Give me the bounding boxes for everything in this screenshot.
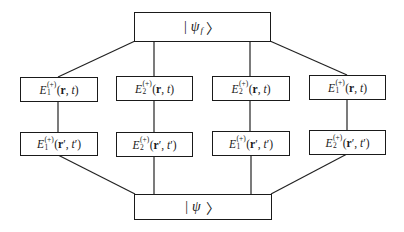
paren-close: ) [363, 82, 367, 94]
paren-close: ) [77, 138, 81, 150]
operator-symbol: E [328, 82, 335, 94]
operator-subscript: 1 [237, 143, 246, 150]
paren-close: ) [267, 83, 271, 95]
ket-close: 〉 [206, 197, 221, 217]
operator-indices: (+) 1 [336, 79, 345, 94]
operator-subscript: 2 [333, 142, 342, 149]
operator-subscript: 2 [239, 88, 248, 95]
paren-close: ) [173, 139, 177, 151]
operator-subscript: 1 [45, 144, 54, 151]
ket-open: | [185, 199, 189, 215]
operator-symbol: E [39, 84, 46, 96]
operator-symbol: E [325, 137, 332, 149]
final-state-box: | ψ f 〉 [134, 12, 271, 42]
operator-indices: (+) 2 [140, 136, 149, 151]
field-op-col3-upper: E (+) 2 ( r , t ) [212, 76, 290, 101]
operator-subscript: 1 [47, 89, 56, 96]
operator-indices: (+) 1 [237, 135, 246, 150]
operator-subscript: 2 [140, 144, 149, 151]
field-op-col1-lower: E (+) 1 ( r ′ , t ′ ) [20, 132, 98, 156]
connector-top-to-col1 [58, 41, 135, 77]
operator-indices: (+) 1 [47, 81, 56, 96]
operator-indices: (+) 2 [143, 80, 152, 95]
field-op-col2-upper: E (+) 2 ( r , t ) [116, 76, 193, 101]
connector-col1-to-bottom [58, 155, 135, 194]
paren-close: ) [269, 138, 273, 150]
interference-diagram: | ψ f 〉 E (+) 1 ( r , t ) E (+) 1 ( r ′ … [0, 0, 404, 232]
operator-indices: (+) 2 [333, 134, 342, 149]
operator-symbol: E [135, 83, 142, 95]
paren-close: ) [75, 84, 79, 96]
operator-indices: (+) 1 [45, 136, 54, 151]
field-op-col4-lower: E (+) 2 ( r ′ , t ′ ) [309, 130, 386, 155]
field-op-col4-upper: E (+) 1 ( r , t ) [309, 75, 386, 100]
field-op-col3-lower: E (+) 1 ( r ′ , t ′ ) [212, 131, 290, 156]
operator-symbol: E [132, 139, 139, 151]
final-subscript: f [201, 25, 205, 35]
operator-subscript: 1 [336, 87, 345, 94]
operator-symbol: E [37, 138, 44, 150]
connector-col4-to-bottom [271, 154, 347, 194]
field-op-col1-upper: E (+) 1 ( r , t ) [20, 77, 98, 102]
initial-state-box: | ψ 〉 [134, 194, 272, 220]
field-op-col2-lower: E (+) 2 ( r ′ , t ′ ) [116, 132, 193, 157]
ket-open: | [184, 19, 188, 35]
operator-subscript: 2 [143, 88, 152, 95]
paren-close: ) [366, 137, 370, 149]
psi-symbol: ψ [191, 19, 201, 35]
connector-top-to-col4 [270, 41, 347, 75]
paren-close: ) [170, 83, 174, 95]
operator-indices: (+) 2 [239, 80, 248, 95]
psi-symbol: ψ [192, 199, 202, 215]
ket-close: 〉 [206, 17, 221, 37]
operator-symbol: E [231, 83, 238, 95]
operator-symbol: E [229, 138, 236, 150]
